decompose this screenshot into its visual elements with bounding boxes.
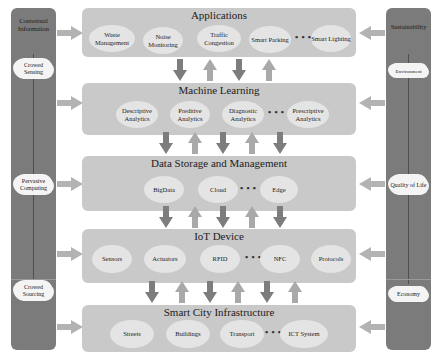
arrow-up-icon [188, 132, 202, 154]
ellipsis-more: • • • [245, 252, 261, 262]
arrow-up-icon [188, 206, 202, 228]
item-rfid: RFID [200, 245, 240, 273]
arrow-down-icon [216, 132, 230, 154]
arrow-down-icon [273, 132, 287, 154]
cloud-label: Pervasive Computing [14, 178, 53, 192]
item-waste-management: Waste Management [89, 25, 135, 52]
cloud-economy: Economy [389, 287, 428, 302]
item-label: Prescriptive Analytics [287, 107, 329, 122]
item-prescriptive-analytics: Prescriptive Analytics [287, 101, 329, 128]
pillar-separator [386, 279, 431, 280]
layer-title: Applications [82, 9, 356, 22]
cloud-environment: Environment [389, 64, 428, 78]
layer-iot-device: IoT Device Sensors Actuators RFID • • • … [82, 229, 356, 283]
item-noise-monitoring: Noise Monitoring [143, 27, 183, 54]
item-label: Smart Lighting [311, 35, 351, 43]
item-buildings: Buildings [166, 320, 210, 348]
item-sensors: Sensors [92, 245, 132, 273]
arrow-down-icon [216, 206, 230, 228]
arrow-up-icon [175, 281, 189, 303]
cloud-label: Environment [395, 68, 421, 75]
item-label: Transport [229, 330, 254, 338]
item-cloud: Cloud [198, 176, 238, 203]
contextual-information-pillar: Contextual Information Crowed Sensing Pe… [11, 8, 56, 350]
item-descriptive-analytics: Descriptive Analytics [116, 101, 158, 128]
arrow-left-icon [359, 96, 385, 110]
ellipsis-more: • • • [268, 107, 284, 117]
item-bigdata: BigData [144, 176, 184, 203]
item-label: ICT System [288, 330, 319, 338]
item-ict-system: ICT System [280, 320, 328, 348]
cloud-label: Economy [397, 291, 420, 298]
item-label: Protocols [319, 255, 344, 263]
ellipsis-more: • • • [295, 32, 311, 42]
item-smart-parking: Smart Parking [249, 26, 291, 53]
layer-title: Machine Learning [82, 84, 356, 97]
arrow-up-icon [203, 59, 217, 81]
ellipsis-more: • • • [240, 183, 256, 193]
item-nfc: NFC [260, 245, 300, 273]
arrow-down-icon [260, 281, 274, 303]
arrow-up-icon [262, 59, 276, 81]
cloud-quality-of-life: Quality of Life [389, 175, 428, 195]
arrow-right-icon [57, 96, 83, 110]
item-streets: Streets [110, 320, 154, 348]
item-label: Noise Monitoring [143, 33, 183, 48]
pillar-connector-line [408, 54, 409, 284]
arrow-up-icon [231, 281, 245, 303]
pillar-separator [11, 279, 56, 280]
pillar-connector-line [33, 54, 34, 284]
item-label: Streets [123, 330, 141, 338]
layer-data-storage-and-management: Data Storage and Management BigData Clou… [82, 156, 356, 211]
item-label: Cloud [210, 186, 226, 194]
item-label: NFC [274, 255, 287, 263]
cloud-pervasive-computing: Pervasive Computing [14, 175, 53, 195]
arrow-left-icon [359, 247, 385, 261]
arrow-down-icon [232, 59, 246, 81]
item-label: Actuators [152, 255, 177, 263]
arrow-left-icon [359, 320, 385, 334]
ellipsis-more: • • • [265, 327, 281, 337]
layer-applications: Applications Waste Management Noise Moni… [82, 8, 356, 57]
arrow-left-icon [359, 177, 385, 191]
item-protocols: Protocols [311, 245, 351, 273]
item-label: Descriptive Analytics [116, 107, 158, 122]
cloud-label: Quality of Life [391, 182, 427, 189]
cloud-crowed-sourcing: Crowed Sourcing [14, 281, 53, 301]
item-label: Sensors [102, 255, 122, 263]
cloud-label: Crowed Sensing [14, 62, 53, 76]
sustainability-pillar: Sustainability Environment Quality of Li… [386, 8, 431, 350]
arrow-up-icon [245, 206, 259, 228]
arrow-right-icon [57, 26, 83, 40]
layer-machine-learning: Machine Learning Descriptive Analytics P… [82, 83, 356, 135]
item-actuators: Actuators [144, 245, 186, 273]
arrow-down-icon [145, 281, 159, 303]
arrow-down-icon [273, 206, 287, 228]
layer-title: Smart City Infrastructure [82, 306, 356, 319]
item-label: Waste Management [89, 31, 135, 46]
arrow-down-icon [159, 132, 173, 154]
item-label: Traffic Congestion [197, 31, 241, 46]
item-label: Preditive Analytics [170, 107, 210, 122]
item-label: Smart Parking [251, 36, 288, 44]
arrow-down-icon [203, 281, 217, 303]
arrow-right-icon [57, 177, 83, 191]
cloud-crowed-sensing: Crowed Sensing [14, 59, 53, 79]
arrow-down-icon [173, 59, 187, 81]
arrow-up-icon [288, 281, 302, 303]
item-edge: Edge [260, 176, 298, 203]
item-traffic-congestion: Traffic Congestion [197, 25, 241, 52]
item-transport: Transport [220, 320, 264, 348]
arrow-down-icon [159, 206, 173, 228]
item-diagnostic-analytics: Diagnostic Analytics [222, 101, 264, 128]
arrow-up-icon [245, 132, 259, 154]
arrow-right-icon [57, 247, 83, 261]
cloud-label: Crowed Sourcing [14, 284, 53, 298]
arrow-left-icon [359, 26, 385, 40]
layer-smart-city-infrastructure: Smart City Infrastructure Streets Buildi… [82, 305, 356, 352]
item-label: Buildings [175, 330, 200, 338]
layer-title: Data Storage and Management [82, 157, 356, 170]
item-label: BigData [153, 186, 175, 194]
layer-title: IoT Device [82, 230, 356, 243]
pillar-title-contextual-information: Contextual Information [11, 17, 56, 33]
